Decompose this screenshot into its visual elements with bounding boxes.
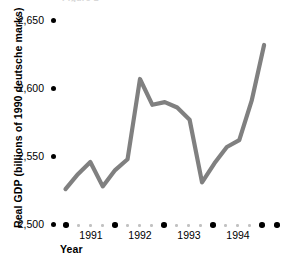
x-axis-minor-dot — [138, 224, 141, 227]
x-axis-minor-dot — [77, 224, 80, 227]
x-axis-minor-dot — [126, 224, 129, 227]
x-axis-dot-1994 — [259, 222, 265, 228]
x-axis-dot-1995 — [274, 222, 280, 228]
x-axis-minor-dot — [224, 224, 227, 227]
chart-figure: Figure 1 Real GDP (billions of 1990 deut… — [0, 0, 283, 255]
x-tick-label-1993: 1993 — [167, 230, 211, 241]
x-axis-minor-dot — [101, 224, 104, 227]
x-axis-minor-dot — [175, 224, 178, 227]
x-axis-minor-dot — [187, 224, 190, 227]
gdp-line-svg — [0, 0, 283, 255]
x-tick-label-1991: 1991 — [69, 230, 113, 241]
x-axis-dot-1993 — [210, 222, 216, 228]
x-axis-label: Year — [60, 243, 83, 255]
x-axis-dot-1991 — [112, 222, 118, 228]
x-axis-minor-dot — [89, 224, 92, 227]
x-axis-dot-1990 — [63, 222, 69, 228]
x-axis-minor-dot — [199, 224, 202, 227]
x-tick-label-1992: 1992 — [118, 230, 162, 241]
x-axis-dot-1992 — [161, 222, 167, 228]
x-axis-minor-dot — [150, 224, 153, 227]
x-axis-minor-dot — [236, 224, 239, 227]
x-tick-label-1994: 1994 — [216, 230, 260, 241]
gdp-line-series — [66, 45, 265, 189]
plot-area — [0, 0, 283, 255]
x-axis-minor-dot — [248, 224, 251, 227]
